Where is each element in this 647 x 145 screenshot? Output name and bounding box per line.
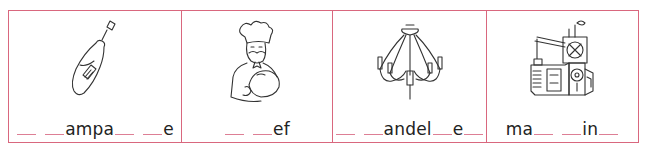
letter-blank[interactable]	[562, 134, 581, 135]
letter-blank[interactable]	[17, 134, 36, 135]
letter-blank[interactable]	[115, 134, 134, 135]
word-fragment: e	[453, 119, 464, 139]
worksheet-grid: ampa e ef	[8, 10, 639, 143]
letter-blank[interactable]	[534, 134, 553, 135]
letter-blank[interactable]	[599, 134, 618, 135]
letter-blank[interactable]	[336, 134, 355, 135]
word-fragment: ef	[273, 119, 290, 139]
champagne-bottle-icon	[60, 17, 130, 111]
word-fill-in-machine: ma in	[487, 119, 638, 139]
word-fill-in-champagne: ampa e	[9, 119, 181, 139]
letter-blank[interactable]	[464, 134, 483, 135]
worksheet-cell-chandelier: andel e	[333, 11, 487, 142]
worksheet-cell-machine: ma in	[487, 11, 638, 142]
letter-blank[interactable]	[433, 134, 452, 135]
word-fragment: ma	[506, 119, 533, 139]
word-fragment: e	[163, 119, 174, 139]
worksheet-cell-chef: ef	[182, 11, 333, 142]
letter-blank[interactable]	[225, 134, 244, 135]
word-fragment: andel	[384, 119, 432, 139]
chef-icon	[227, 19, 287, 109]
worksheet-cell-champagne: ampa e	[9, 11, 182, 142]
letter-blank[interactable]	[253, 134, 272, 135]
machine-icon	[525, 17, 601, 107]
word-fragment: ampa	[65, 119, 114, 139]
chandelier-icon	[372, 21, 448, 109]
word-fill-in-chandelier: andel e	[333, 119, 486, 139]
word-fragment: in	[582, 119, 598, 139]
letter-blank[interactable]	[45, 134, 64, 135]
word-fill-in-chef: ef	[182, 119, 332, 139]
letter-blank[interactable]	[364, 134, 383, 135]
letter-blank[interactable]	[143, 134, 162, 135]
